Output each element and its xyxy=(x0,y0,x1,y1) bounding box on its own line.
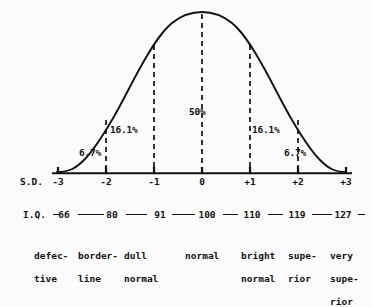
percent-label-right-tail: 6.7% xyxy=(284,147,306,158)
category-very-superior-line3: rior xyxy=(330,296,353,307)
category-borderline-line2: line xyxy=(78,273,101,284)
category-label-borderline: border- line xyxy=(78,238,118,284)
sd-tick-label-plus3: +3 xyxy=(334,176,358,187)
iq-value-100: 100 xyxy=(192,209,222,220)
category-defective-line2: tive xyxy=(34,273,57,284)
category-label-dull-normal: dull normal xyxy=(124,238,158,284)
category-borderline-line1: border- xyxy=(78,250,118,261)
sd-tick-label-plus1: +1 xyxy=(238,176,262,187)
iq-value-119: 119 xyxy=(282,209,312,220)
category-dull-normal-line1: dull xyxy=(124,250,147,261)
sd-tick-label-zero: 0 xyxy=(190,176,214,187)
iq-dash-5 xyxy=(268,214,283,215)
percent-label-left-tail: 6.7% xyxy=(79,147,101,158)
sd-tick-label-minus1: -1 xyxy=(142,176,166,187)
category-defective-line1: defec- xyxy=(34,250,68,261)
percent-label-left-mid: 16.1% xyxy=(110,124,138,135)
category-label-bright-normal: bright normal xyxy=(241,238,275,284)
sd-tick-label-plus2: +2 xyxy=(286,176,310,187)
iq-value-80: 80 xyxy=(99,209,125,220)
category-label-superior: supe- rior xyxy=(288,238,317,284)
category-label-normal: normal xyxy=(185,238,219,261)
sd-row-label: S.D. xyxy=(20,176,43,187)
iq-value-110: 110 xyxy=(237,209,267,220)
percent-label-right-mid: 16.1% xyxy=(252,124,280,135)
category-very-superior-line2: supe- xyxy=(330,273,359,284)
iq-dash-trailing xyxy=(358,214,365,215)
category-normal-line1: normal xyxy=(185,250,219,261)
category-very-superior-line1: very xyxy=(330,250,353,261)
category-label-very-superior: very supe- rior xyxy=(330,238,359,307)
category-superior-line1: supe- xyxy=(288,250,317,261)
sd-tick-label-minus3: -3 xyxy=(46,176,70,187)
category-superior-line2: rior xyxy=(288,273,311,284)
iq-dash-2 xyxy=(126,214,147,215)
category-bright-normal-line2: normal xyxy=(241,273,275,284)
iq-value-91: 91 xyxy=(147,209,173,220)
iq-value-66: 66 xyxy=(51,209,77,220)
category-label-defective: defec- tive xyxy=(34,238,68,284)
category-dull-normal-line2: normal xyxy=(124,273,158,284)
sd-tick-label-minus2: -2 xyxy=(94,176,118,187)
percent-label-center: 50% xyxy=(189,106,206,117)
iq-dash-4 xyxy=(223,214,238,215)
iq-row-label: I.Q. xyxy=(23,209,46,220)
iq-value-127: 127 xyxy=(328,209,358,220)
category-bright-normal-line1: bright xyxy=(241,250,275,261)
